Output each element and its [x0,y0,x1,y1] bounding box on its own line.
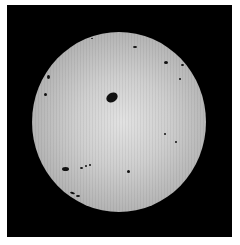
sunspot [179,78,181,80]
sunspot [164,61,168,64]
sunspot [89,164,91,166]
sunspot [44,93,47,96]
sunspot [181,64,184,66]
sunspot [127,170,130,173]
sunspot [80,167,83,169]
sunspot [175,141,177,143]
sunspot [47,75,50,79]
sunspot [62,167,69,171]
sunspot [164,133,166,135]
sunspot [133,46,137,48]
sunspot [76,195,80,197]
sunspot [91,38,93,39]
solar-disk [32,32,206,212]
sunspot [85,165,87,167]
